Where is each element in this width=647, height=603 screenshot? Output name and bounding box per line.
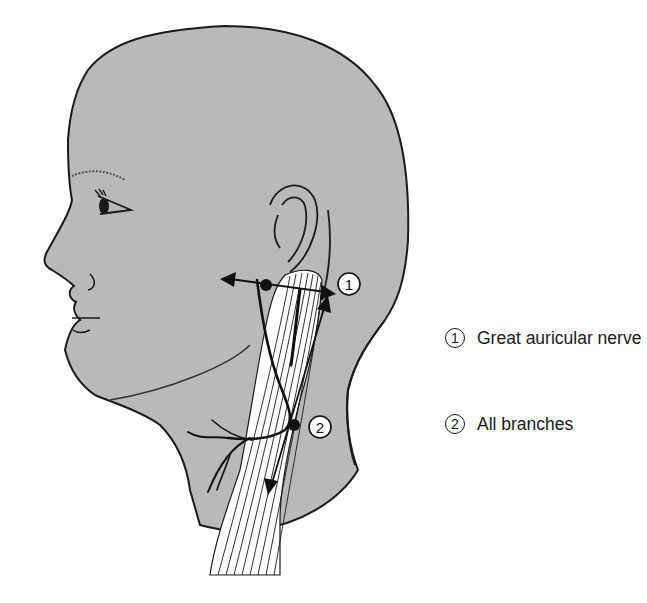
legend-item-great-auricular: 1 Great auricular nerve <box>445 328 645 348</box>
head-neck-illustration: 1 2 <box>0 0 647 603</box>
legend-number-1: 1 <box>445 328 465 348</box>
legend-number-2: 2 <box>445 414 465 434</box>
legend-item-all-branches: 2 All branches <box>445 414 573 434</box>
marker-1-label: 1 <box>345 276 353 293</box>
marker-2-label: 2 <box>316 419 324 436</box>
legend-text-2: All branches <box>477 414 573 434</box>
legend-text-1: Great auricular nerve <box>477 328 641 348</box>
legend: 1 Great auricular nerve 2 All branches <box>445 328 645 348</box>
